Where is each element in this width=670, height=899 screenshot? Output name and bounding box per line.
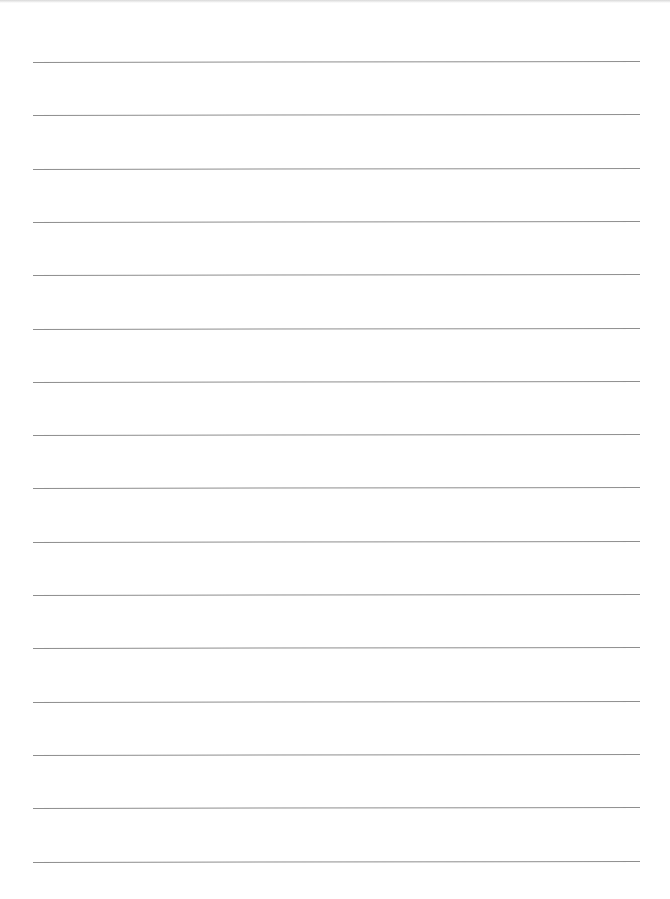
ruled-line <box>33 594 640 596</box>
ruled-line <box>33 168 640 170</box>
ruled-line <box>33 754 640 756</box>
ruled-line <box>33 61 640 63</box>
ruled-line <box>33 807 640 809</box>
ruled-line <box>33 381 640 383</box>
ruled-line <box>33 328 640 330</box>
ruled-line <box>33 114 640 116</box>
top-edge-shadow <box>0 0 670 3</box>
ruled-line <box>33 541 640 543</box>
ruled-line <box>33 221 640 223</box>
ruled-line <box>33 434 640 436</box>
ruled-line <box>33 701 640 703</box>
ruled-line <box>33 487 640 489</box>
ruled-line <box>33 861 640 863</box>
ruled-line <box>33 274 640 276</box>
ruled-line <box>33 647 640 649</box>
